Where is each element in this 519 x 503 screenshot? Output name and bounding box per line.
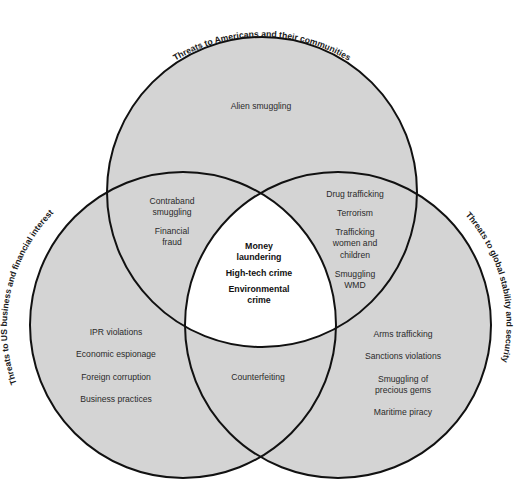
region-item: Trafficking — [335, 227, 374, 237]
region-item: Financial — [155, 226, 189, 236]
region-left-right-item: Counterfeiting — [231, 372, 285, 382]
region-item: IPR violations — [90, 327, 143, 337]
region-item: Maritime piracy — [374, 407, 433, 417]
region-item: Terrorism — [337, 208, 373, 218]
region-item: smuggling — [152, 207, 191, 217]
region-item: Business practices — [80, 394, 152, 404]
venn-diagram: Threats to Americans and their communiti… — [0, 0, 519, 503]
region-item: WMD — [344, 280, 365, 290]
region-item: Drug trafficking — [326, 189, 384, 199]
region-item: Smuggling — [335, 269, 376, 279]
region-item: precious gems — [375, 385, 431, 395]
region-item: laundering — [237, 252, 282, 262]
region-item: fraud — [162, 237, 182, 247]
region-item: children — [340, 250, 370, 260]
region-item: Foreign corruption — [81, 372, 151, 382]
region-item: Economic espionage — [76, 349, 156, 359]
region-item: Sanctions violations — [365, 351, 441, 361]
region-item: Money — [245, 241, 273, 251]
region-item: Smuggling of — [378, 374, 429, 384]
region-item: crime — [247, 295, 271, 305]
region-item: Contraband — [150, 196, 195, 206]
region-item: women and — [332, 238, 378, 248]
region-item: Arms trafficking — [373, 329, 432, 339]
region-top-only-item: Alien smuggling — [231, 101, 292, 111]
region-item: High-tech crime — [226, 268, 293, 278]
region-item: Environmental — [228, 284, 289, 294]
